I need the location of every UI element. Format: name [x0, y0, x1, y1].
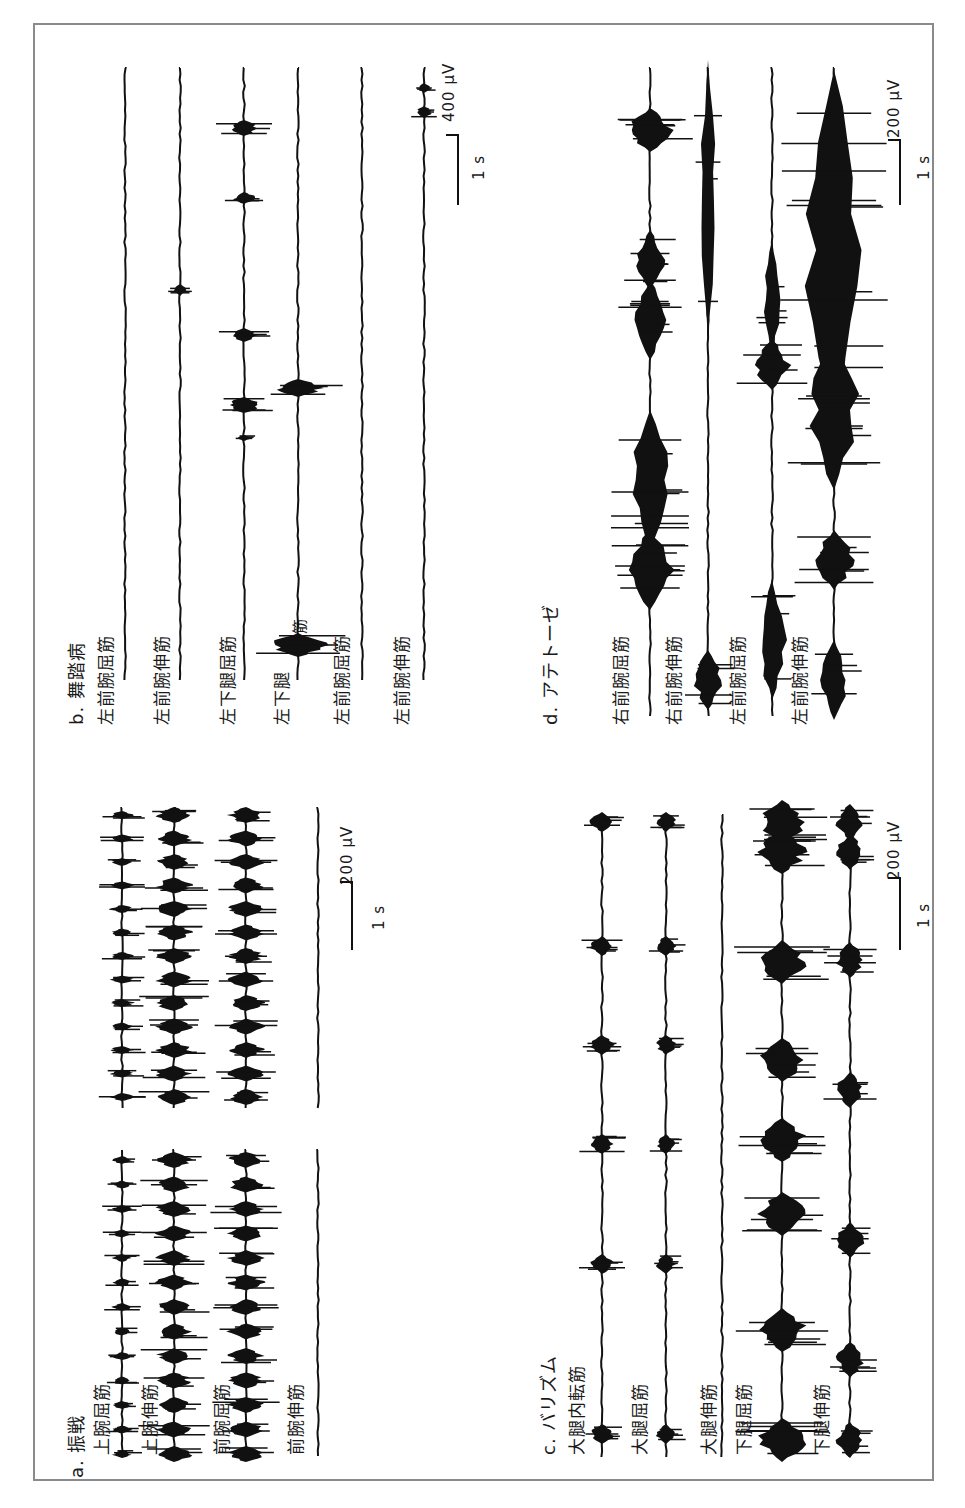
- emg-traces: [0, 0, 965, 1508]
